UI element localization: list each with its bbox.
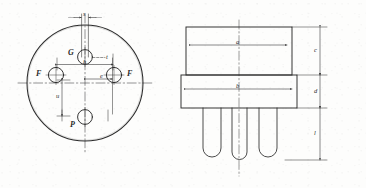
pin-label-g: G [68,49,74,57]
lead-2 [232,108,247,160]
top-view-group [18,14,152,152]
pin-label-f-right: F [127,70,132,78]
dim-label-s: s [83,11,86,18]
dim-label-c: c [314,47,317,54]
drawing-canvas [0,0,366,188]
dim-label-h: h [83,59,86,66]
dim-label-u: u [56,93,59,100]
lead-3 [259,108,277,157]
dim-label-a: a [236,39,239,46]
side-view-group [181,20,327,176]
dim-label-l: l [314,130,316,137]
drawing-sheet: G F F P s t h e u a b c d l [0,0,366,188]
lead-1 [203,108,221,157]
dim-label-b: b [236,83,239,90]
dim-label-d: d [314,88,317,95]
dim-label-t: t [106,54,108,61]
dim-label-e: e [100,73,103,80]
pin-label-p: P [70,121,75,129]
pin-label-f-left: F [36,70,41,78]
